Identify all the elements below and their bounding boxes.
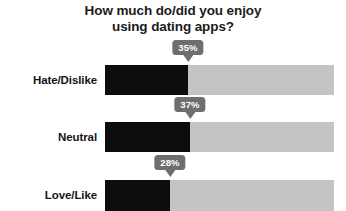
bar-track-hate-dislike: [105, 65, 334, 95]
plot-area: Hate/Dislike 35% Neutral 37% Love/Like 2…: [0, 0, 346, 211]
bar-fill-hate-dislike: [105, 65, 188, 95]
category-label-neutral: Neutral: [0, 131, 97, 143]
bar-track-neutral: [105, 122, 334, 152]
value-badge-love-like: 28%: [154, 155, 185, 170]
bar-fill-love-like: [105, 180, 170, 211]
bar-fill-neutral: [105, 122, 190, 152]
bar-track-love-like: [105, 180, 334, 211]
category-label-love-like: Love/Like: [0, 189, 97, 201]
chart-container: How much do/did you enjoy using dating a…: [0, 0, 346, 211]
value-badge-hate-dislike: 35%: [172, 40, 203, 55]
category-label-hate-dislike: Hate/Dislike: [0, 74, 97, 86]
value-badge-neutral: 37%: [174, 97, 205, 112]
